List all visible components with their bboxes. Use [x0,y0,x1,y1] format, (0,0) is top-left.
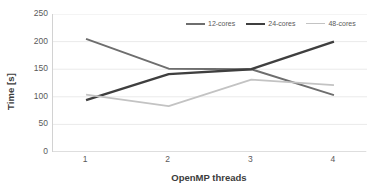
x-axis-tick-labels: 1234 [52,155,366,169]
series-lines [86,39,334,106]
series-line-12-cores [86,39,334,95]
legend-item[interactable]: 24-cores [246,20,295,27]
legend-item[interactable]: 12-cores [186,20,235,27]
y-tick-label: 250 [22,9,48,18]
y-tick-label: 200 [22,37,48,46]
x-tick-label: 3 [235,155,265,164]
y-tick-label: 100 [22,92,48,101]
x-tick-label: 2 [153,155,183,164]
plot-area [52,14,366,152]
y-tick-label: 150 [22,64,48,73]
legend-label: 24-cores [268,20,295,27]
y-tick-label: 50 [22,119,48,128]
y-axis-title-label: Time [s] [6,72,17,109]
y-tick-label: 0 [22,147,48,156]
x-axis-title: OpenMP threads [52,172,366,183]
x-tick-label: 4 [318,155,348,164]
legend-label: 12-cores [208,20,235,27]
gridlines [53,14,367,152]
y-axis-title: Time [s] [3,48,19,134]
series-line-24-cores [86,42,334,101]
line-chart: Time [s] 050100150200250 1234 OpenMP thr… [0,0,375,192]
legend-swatch-icon [246,23,265,25]
chart-legend: 12-cores24-cores48-cores [186,17,356,30]
y-axis-tick-labels: 050100150200250 [18,0,48,192]
plot-svg [53,14,367,152]
legend-label: 48-cores [328,20,355,27]
legend-item[interactable]: 48-cores [306,20,355,27]
legend-swatch-icon [306,23,325,24]
x-tick-label: 1 [70,155,100,164]
legend-swatch-icon [186,23,205,25]
